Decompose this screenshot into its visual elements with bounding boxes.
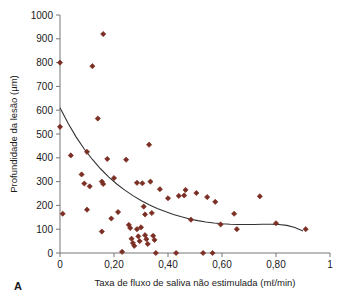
y-axis-tick-label: 500 [36,129,53,140]
data-point-marker [124,157,129,162]
y-axis-tick-label: 0 [47,248,53,259]
y-axis-tick-label: 300 [36,176,53,187]
data-point-marker [79,172,84,177]
y-axis-tick-label: 100 [36,224,53,235]
x-axis-tick-label: 0,40 [158,259,178,270]
y-axis-tick-label: 1000 [31,10,54,21]
data-point-marker [218,222,223,227]
data-point-marker [60,211,65,216]
data-point-marker [201,250,206,255]
data-point-marker [142,212,147,217]
data-point-marker [115,209,120,214]
x-axis-title: Taxa de fluxo de saliva não estimulada (… [94,277,295,288]
data-point-marker [145,241,150,246]
data-point-marker [273,221,278,226]
data-point-marker [87,184,92,189]
data-point-marker [140,181,145,186]
x-axis-tick-label: 0,80 [266,259,286,270]
y-axis-tick-label: 600 [36,105,53,116]
data-point-marker [176,193,181,198]
data-point-marker [182,193,187,198]
data-point-marker [99,229,104,234]
y-axis-tick-label: 900 [36,33,53,44]
data-points-group [57,31,308,255]
x-axis-tick-label: 0,60 [212,259,232,270]
data-point-marker [109,216,114,221]
y-axis-tick-label: 400 [36,152,53,163]
y-axis-tick-label: 200 [36,200,53,211]
data-point-marker [147,142,152,147]
data-point-marker [165,196,170,201]
x-axis-tick-label: 0 [57,259,63,270]
data-point-marker [210,250,215,255]
data-point-marker [188,217,193,222]
data-point-marker [213,199,218,204]
data-point-marker [205,194,210,199]
x-axis-tick-label: 1 [327,259,333,270]
data-point-marker [148,179,153,184]
data-point-marker [149,210,154,215]
data-point-marker [174,250,179,255]
data-point-marker [153,250,158,255]
data-point-marker [232,211,237,216]
data-point-marker [82,181,87,186]
data-point-marker [183,187,188,192]
y-axis-tick-label: 800 [36,57,53,68]
chart-figure: 0100200300400500600700800900100000,200,4… [0,0,346,301]
x-axis-tick-label: 0,20 [104,259,124,270]
data-point-marker [90,64,95,69]
data-point-marker [68,153,73,158]
data-point-marker [105,156,110,161]
data-point-marker [120,249,125,254]
data-point-marker [84,207,89,212]
fit-curve [60,108,303,231]
data-point-marker [134,180,139,185]
data-point-marker [157,187,162,192]
data-point-marker [257,194,262,199]
data-point-marker [136,234,141,239]
data-point-marker [95,116,100,121]
data-point-marker [303,227,308,232]
data-point-marker [234,227,239,232]
data-point-marker [57,124,62,129]
panel-label: A [14,280,22,292]
data-point-marker [194,190,199,195]
y-axis-tick-label: 700 [36,81,53,92]
axes-group: 0100200300400500600700800900100000,200,4… [31,10,333,271]
data-point-marker [137,239,142,244]
data-point-marker [57,60,62,65]
data-point-marker [101,31,106,36]
y-axis-title: Profundidade da lesão (µm) [8,75,19,192]
data-point-marker [141,204,146,209]
scatter-plot: 0100200300400500600700800900100000,200,4… [0,0,346,301]
